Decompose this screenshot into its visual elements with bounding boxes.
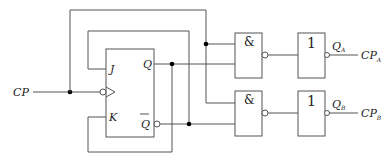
pin-label-q: Q <box>143 58 152 71</box>
qbar-inversion-bubble <box>154 121 160 127</box>
not-b-output-bubble <box>325 111 330 116</box>
pin-label-j: J <box>108 63 115 76</box>
nand-a-output-bubble <box>262 52 268 58</box>
qbar-junction <box>187 122 192 127</box>
nand-gate-b: & <box>235 91 268 136</box>
qb-label: QB <box>332 98 346 111</box>
cpa-label: CPA <box>361 49 382 63</box>
cp-gate-junction <box>204 42 209 47</box>
nand-b-symbol: & <box>244 93 255 107</box>
pin-label-qbar: Q <box>141 118 150 131</box>
nand-gate-a: & <box>235 33 268 78</box>
qa-label: QA <box>332 40 346 53</box>
q-junction <box>170 62 175 67</box>
not-gate-b: 1 <box>298 91 330 136</box>
nand-a-symbol: & <box>244 35 255 49</box>
not-b-symbol: 1 <box>307 93 316 109</box>
not-a-symbol: 1 <box>307 35 316 51</box>
pin-label-k: K <box>108 111 118 124</box>
nand-b-output-bubble <box>262 110 268 116</box>
cp-input-label: CP <box>13 86 29 99</box>
clock-inversion-bubble <box>100 89 106 95</box>
circuit-diagram: CP J K Q Q & & 1 <box>0 0 386 165</box>
jk-flip-flop: J K Q Q <box>100 49 160 137</box>
not-gate-a: 1 <box>298 33 330 78</box>
not-a-output-bubble <box>325 53 330 58</box>
cpb-label: CPB <box>361 107 382 121</box>
